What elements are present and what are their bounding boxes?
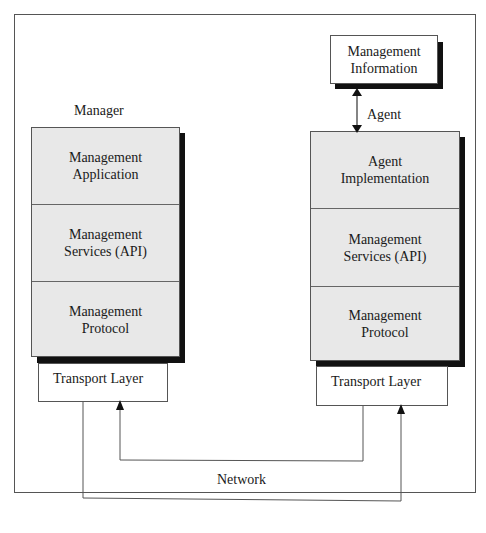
connector-lines xyxy=(0,0,486,533)
arrow-up-icon xyxy=(397,404,405,414)
network-label: Network xyxy=(217,472,266,488)
arrow-up-icon xyxy=(116,400,124,410)
